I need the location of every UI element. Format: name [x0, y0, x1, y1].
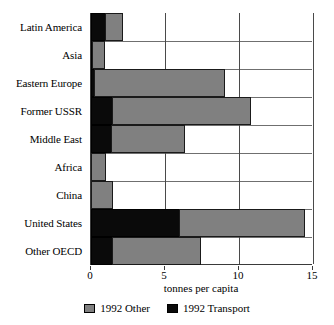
- bar-segment-other: [91, 181, 113, 209]
- x-tick-label: 0: [87, 270, 93, 281]
- category-label-latin-america: Latin America: [0, 13, 86, 41]
- category-label-china: China: [0, 181, 86, 209]
- bar-segment-other: [94, 69, 224, 97]
- bar-row: [91, 237, 201, 265]
- category-label-asia: Asia: [0, 41, 86, 69]
- x-tick-label: 15: [307, 270, 318, 281]
- x-tick-label: 10: [233, 270, 244, 281]
- bar-segment-other: [92, 41, 105, 69]
- legend-label-other: 1992 Other: [100, 303, 150, 314]
- bars-layer: [91, 13, 312, 264]
- category-label-eastern-europe: Eastern Europe: [0, 69, 86, 97]
- plot-area: [90, 13, 312, 265]
- bar-segment-transport: [91, 97, 113, 125]
- bar-segment-other: [105, 13, 123, 41]
- bar-segment-transport: [91, 13, 106, 41]
- transport-swatch-icon: [167, 304, 178, 313]
- bar-row: [91, 181, 113, 209]
- bar-segment-transport: [91, 209, 180, 237]
- bar-segment-other: [91, 153, 106, 181]
- bar-segment-transport: [91, 125, 112, 153]
- legend-entry-other: 1992 Other: [84, 303, 150, 314]
- bar-segment-other: [111, 125, 185, 153]
- bar-segment-other: [112, 237, 201, 265]
- bar-row: [91, 209, 305, 237]
- bar-row: [91, 97, 251, 125]
- category-label-africa: Africa: [0, 153, 86, 181]
- chart-legend: 1992 Other 1992 Transport: [0, 303, 334, 314]
- legend-entry-transport: 1992 Transport: [167, 303, 250, 314]
- legend-label-transport: 1992 Transport: [183, 303, 250, 314]
- bar-row: [91, 153, 106, 181]
- category-label-middle-east: Middle East: [0, 125, 86, 153]
- stacked-bar-chart: Latin America Asia Eastern Europe Former…: [0, 0, 334, 325]
- other-swatch-icon: [84, 304, 95, 313]
- bar-segment-other: [179, 209, 305, 237]
- category-label-other-oecd: Other OECD: [0, 237, 86, 265]
- bar-row: [91, 13, 123, 41]
- bar-row: [91, 125, 185, 153]
- bar-segment-other: [112, 97, 251, 125]
- category-label-united-states: United States: [0, 209, 86, 237]
- x-tick-label: 5: [161, 270, 167, 281]
- bar-row: [91, 69, 225, 97]
- bar-row: [91, 41, 105, 69]
- x-axis-title: tonnes per capita: [90, 283, 312, 294]
- vertical-gridline: [313, 13, 314, 264]
- bar-segment-transport: [91, 237, 113, 265]
- x-axis-ticks: 051015: [90, 266, 312, 282]
- category-label-former-ussr: Former USSR: [0, 97, 86, 125]
- category-axis-labels: Latin America Asia Eastern Europe Former…: [0, 13, 86, 265]
